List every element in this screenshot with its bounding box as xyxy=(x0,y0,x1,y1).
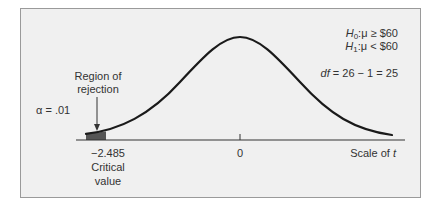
zero-tick-label: 0 xyxy=(237,147,243,159)
critical-value-label-line1: Critical xyxy=(91,161,125,173)
critical-value-label-line2: value xyxy=(95,175,121,187)
axis-scale-prefix: Scale of xyxy=(350,147,393,159)
critical-value-number: −2.485 xyxy=(91,147,125,159)
alternative-hypothesis-statement: :μ < $60 xyxy=(358,40,398,52)
rejection-label-line2: rejection xyxy=(77,83,119,95)
df-expression: = 26 − 1 = 25 xyxy=(330,67,398,79)
null-hypothesis-symbol: H xyxy=(346,27,354,39)
alpha-label: α = .01 xyxy=(36,104,70,116)
alternative-hypothesis-symbol: H xyxy=(345,40,353,52)
alternative-hypothesis: H1:μ < $60 xyxy=(345,40,398,54)
t-distribution-diagram: Region of rejection α = .01 −2.485 Criti… xyxy=(0,0,439,210)
null-hypothesis-statement: :μ ≥ $60 xyxy=(358,27,398,39)
degrees-of-freedom: df = 26 − 1 = 25 xyxy=(321,67,398,79)
null-hypothesis: H0:μ ≥ $60 xyxy=(346,27,398,41)
rejection-label-line1: Region of xyxy=(74,70,122,82)
axis-scale-label: Scale of t xyxy=(350,147,397,159)
